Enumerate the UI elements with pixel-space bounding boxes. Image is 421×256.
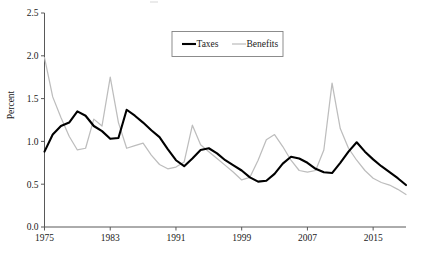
x-axis-tick-label: 1991 [166, 233, 185, 243]
y-axis-tick-label: 2.0 [27, 51, 39, 61]
series-group [45, 58, 407, 195]
chart-canvas: 0.00.51.01.52.02.5 197519831991199920072… [0, 0, 421, 256]
series-line-taxes [45, 110, 407, 185]
y-axis-tick-label: 0.5 [27, 180, 39, 190]
line-chart: 0.00.51.01.52.02.5 197519831991199920072… [0, 0, 421, 256]
y-axis-title: Percent [6, 90, 16, 119]
legend-label-taxes: Taxes [197, 39, 219, 49]
x-axis: 197519831991199920072015 [35, 227, 406, 243]
y-axis-tick-label: 1.5 [27, 94, 39, 104]
series-line-benefits [45, 58, 407, 195]
x-axis-tick-label: 1975 [35, 233, 54, 243]
chart-legend: TaxesBenefits [172, 32, 283, 57]
legend-label-benefits: Benefits [247, 39, 279, 49]
y-axis-tick-label: 0.0 [27, 222, 39, 232]
x-axis-tick-label: 1983 [101, 233, 120, 243]
x-axis-tick-label: 2007 [298, 233, 317, 243]
y-axis-tick-label: 1.0 [27, 137, 39, 147]
y-axis: 0.00.51.01.52.02.5 [27, 8, 45, 232]
cropped-title-smudge [150, 1, 158, 3]
y-axis-tick-label: 2.5 [27, 8, 39, 18]
x-axis-tick-label: 1999 [232, 233, 251, 243]
x-axis-tick-label: 2015 [364, 233, 383, 243]
